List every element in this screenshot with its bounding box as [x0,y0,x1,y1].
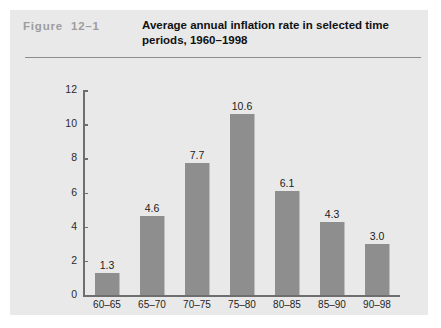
y-tick-label: 8 [71,151,77,163]
y-tick-label: 0 [71,288,77,300]
bar [95,273,120,295]
bar-value-label: 4.3 [325,208,340,220]
bar-value-label: 4.6 [145,202,160,214]
bar-value-label: 3.0 [370,230,385,242]
bar-series: 1.360–654.665–707.770–7510.675–806.180–8… [85,90,400,295]
bar [275,191,300,295]
bar-group: 3.090–98 [355,90,400,295]
bar-value-label: 6.1 [280,177,295,189]
bar-group: 10.675–80 [220,90,265,295]
bar [185,163,210,295]
bar-group: 6.180–85 [265,90,310,295]
x-tick-label: 60–65 [93,299,121,310]
y-tick-label: 4 [71,220,77,232]
bar-value-label: 7.7 [190,149,205,161]
y-tick-label: 10 [65,117,77,129]
y-tick-mark [84,295,88,297]
x-tick-label: 85–90 [318,299,346,310]
bar-group: 4.385–90 [310,90,355,295]
bar-group: 1.360–65 [85,90,130,295]
bar-value-label: 10.6 [232,100,252,112]
x-tick-label: 65–70 [138,299,166,310]
y-tick-label: 12 [65,83,77,95]
y-tick-label: 2 [71,254,77,266]
bar-value-label: 1.3 [100,259,115,271]
x-tick-label: 90–98 [363,299,391,310]
bar [140,216,165,295]
y-tick-label: 6 [71,186,77,198]
bar-chart: 024681012 1.360–654.665–707.770–7510.675… [10,58,428,315]
figure-panel: Figure 12–1 Average annual inflation rat… [10,10,428,315]
figure-title: Average annual inflation rate in selecte… [142,18,414,48]
x-tick-label: 75–80 [228,299,256,310]
bar [365,244,390,295]
bar [230,114,255,295]
figure-number-label: Figure 12–1 [23,20,100,32]
figure-header: Figure 12–1 Average annual inflation rat… [10,10,428,58]
x-tick-label: 70–75 [183,299,211,310]
bar-group: 7.770–75 [175,90,220,295]
bar [320,222,345,295]
x-axis-line [83,295,400,297]
x-tick-label: 80–85 [273,299,301,310]
plot-area: 024681012 1.360–654.665–707.770–7510.675… [83,90,400,295]
bar-group: 4.665–70 [130,90,175,295]
